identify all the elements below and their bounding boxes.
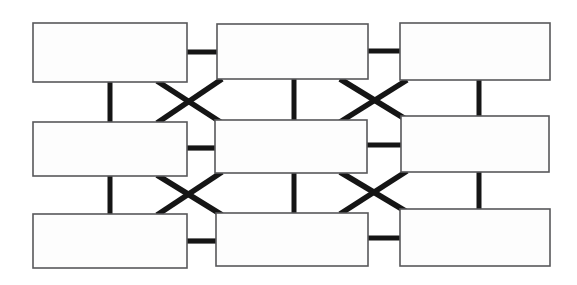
- node-box[interactable]: [33, 214, 187, 268]
- node-r3c1[interactable]: [33, 214, 187, 268]
- node-box[interactable]: [215, 120, 367, 173]
- diagram-svg: [0, 0, 577, 285]
- node-r2c1[interactable]: [33, 122, 187, 176]
- node-r1c3[interactable]: [400, 23, 550, 80]
- node-box[interactable]: [217, 24, 368, 79]
- nodes-layer: [33, 23, 550, 268]
- diagram-canvas: [0, 0, 577, 285]
- node-box[interactable]: [400, 23, 550, 80]
- node-r2c3[interactable]: [401, 116, 549, 172]
- node-r1c1[interactable]: [33, 23, 187, 82]
- node-r1c2[interactable]: [217, 24, 368, 79]
- node-r3c3[interactable]: [400, 209, 550, 266]
- node-box[interactable]: [33, 122, 187, 176]
- node-r2c2[interactable]: [215, 120, 367, 173]
- node-box[interactable]: [400, 209, 550, 266]
- node-box[interactable]: [33, 23, 187, 82]
- node-r3c2[interactable]: [216, 213, 368, 266]
- node-box[interactable]: [216, 213, 368, 266]
- node-box[interactable]: [401, 116, 549, 172]
